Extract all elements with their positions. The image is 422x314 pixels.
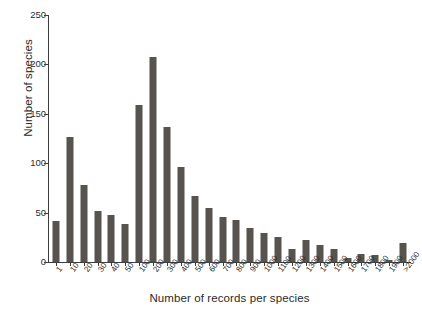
bar-slot <box>216 15 230 262</box>
bar-slot <box>174 15 188 262</box>
bar[interactable] <box>219 217 226 262</box>
bar[interactable] <box>247 228 254 262</box>
bar[interactable] <box>150 57 157 262</box>
bar[interactable] <box>177 167 184 262</box>
y-axis-tick-mark <box>44 15 48 16</box>
bar-slot <box>230 15 244 262</box>
bar-slot <box>257 15 271 262</box>
y-axis-tick-label: 50 <box>20 208 46 218</box>
x-axis-tick-label: 1 <box>55 265 64 273</box>
bar[interactable] <box>66 137 73 262</box>
bar[interactable] <box>191 196 198 262</box>
y-axis-tick-label: 0 <box>20 257 46 267</box>
bar-slot <box>160 15 174 262</box>
x-axis-title: Number of records per species <box>48 292 411 304</box>
bar[interactable] <box>205 208 212 262</box>
y-axis-tick-label: 100 <box>20 158 46 168</box>
bar-slot <box>243 15 257 262</box>
bar-slot <box>271 15 285 262</box>
bar-slot <box>382 15 396 262</box>
bar-slot <box>63 15 77 262</box>
bar-slot <box>299 15 313 262</box>
bar-slot <box>396 15 410 262</box>
y-axis-tick-label: 250 <box>20 10 46 20</box>
bar[interactable] <box>122 224 129 262</box>
bars-layer <box>49 15 411 262</box>
bar[interactable] <box>52 221 59 262</box>
y-axis-tick-mark <box>44 114 48 115</box>
y-axis-tick-labels: 050100150200250 <box>20 0 46 314</box>
bar-slot <box>313 15 327 262</box>
bar-slot <box>49 15 63 262</box>
x-axis-tick-labels: 1102030405010020030040050060070080090010… <box>49 267 411 291</box>
bar-slot <box>77 15 91 262</box>
bar[interactable] <box>233 220 240 262</box>
bar-slot <box>368 15 382 262</box>
bar[interactable] <box>80 185 87 262</box>
bar[interactable] <box>94 211 101 262</box>
y-axis-tick-mark <box>44 64 48 65</box>
bar-slot <box>354 15 368 262</box>
bar-slot <box>341 15 355 262</box>
y-axis-tick-mark <box>44 163 48 164</box>
bar[interactable] <box>136 105 143 262</box>
bar-slot <box>188 15 202 262</box>
y-axis-tick-label: 200 <box>20 59 46 69</box>
bar-slot <box>91 15 105 262</box>
bar-slot <box>146 15 160 262</box>
bar-slot <box>105 15 119 262</box>
y-axis-tick-label: 150 <box>20 109 46 119</box>
y-axis-tick-mark <box>44 213 48 214</box>
bar[interactable] <box>261 233 268 262</box>
bar-slot <box>132 15 146 262</box>
bar[interactable] <box>108 215 115 262</box>
bar[interactable] <box>164 127 171 262</box>
bar-slot <box>327 15 341 262</box>
bar-slot <box>118 15 132 262</box>
bar-slot <box>202 15 216 262</box>
plot-area <box>48 15 411 263</box>
y-axis-tick-mark <box>44 262 48 263</box>
bar-slot <box>285 15 299 262</box>
